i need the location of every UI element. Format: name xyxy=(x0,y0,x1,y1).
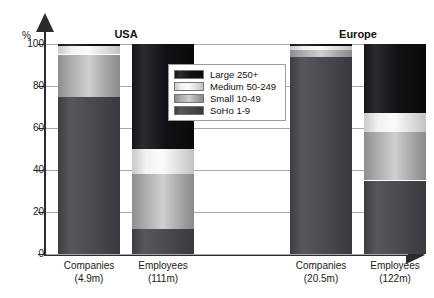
legend-item-medium[interactable]: Medium 50-249 xyxy=(174,81,280,92)
group-title-europe: Europe xyxy=(298,28,418,40)
category-label-name: Employees xyxy=(370,260,419,271)
y-axis-tick: 40 xyxy=(0,170,44,171)
legend-swatch-soho xyxy=(174,106,204,115)
legend-label: Medium 50-249 xyxy=(210,81,276,92)
y-axis-tick-label: 40 xyxy=(18,164,44,175)
category-label: Employees(122m) xyxy=(350,259,434,285)
gridline xyxy=(46,254,408,255)
y-axis-tick-label: 80 xyxy=(18,80,44,91)
y-axis-tick: 80 xyxy=(0,86,44,87)
y-axis-tick-label: 100 xyxy=(18,38,44,49)
bar-segment-soho xyxy=(132,229,194,254)
legend-item-large[interactable]: Large 250+ xyxy=(174,69,280,80)
bar-segment-soho xyxy=(364,181,426,255)
y-axis-tick-label: 0 xyxy=(18,248,44,259)
bar-segment-small xyxy=(132,174,194,229)
legend-swatch-small xyxy=(174,94,204,103)
legend-item-soho[interactable]: SoHo 1-9 xyxy=(174,105,280,116)
bar-segment-small xyxy=(364,132,426,180)
y-axis-tick-label: 60 xyxy=(18,122,44,133)
bar-segment-soho xyxy=(290,57,352,254)
bar-segment-soho xyxy=(58,97,120,255)
category-label: Employees(111m) xyxy=(118,259,208,285)
chart-canvas: % 100806040200 USAEurope Companies(4.9m)… xyxy=(0,0,434,298)
category-label-name: Companies xyxy=(64,260,115,271)
bar-segment-medium xyxy=(132,149,194,174)
y-axis-tick: 60 xyxy=(0,128,44,129)
category-label-name: Employees xyxy=(138,260,187,271)
legend-label: SoHo 1-9 xyxy=(210,105,250,116)
category-label-value: (111m) xyxy=(118,272,208,285)
legend-label: Large 250+ xyxy=(210,69,258,80)
category-label-value: (122m) xyxy=(350,272,434,285)
y-axis-tick: 20 xyxy=(0,212,44,213)
bar-usa-companies[interactable] xyxy=(58,44,120,254)
group-title-usa: USA xyxy=(66,28,186,40)
bar-segment-large xyxy=(364,44,426,113)
y-axis-tick: 100 xyxy=(0,44,44,45)
legend-item-small[interactable]: Small 10-49 xyxy=(174,93,280,104)
bar-europe-companies[interactable] xyxy=(290,44,352,254)
y-axis-tick: 0 xyxy=(0,254,44,255)
bar-europe-employees[interactable] xyxy=(364,44,426,254)
legend-swatch-large xyxy=(174,70,204,79)
bar-segment-small xyxy=(58,55,120,97)
y-axis-tick-label: 20 xyxy=(18,206,44,217)
legend-swatch-medium xyxy=(174,82,204,91)
bar-segment-medium xyxy=(58,46,120,54)
category-label-name: Companies xyxy=(296,260,347,271)
bar-segment-medium xyxy=(364,113,426,132)
legend: Large 250+Medium 50-249Small 10-49SoHo 1… xyxy=(168,64,286,121)
legend-label: Small 10-49 xyxy=(210,93,261,104)
